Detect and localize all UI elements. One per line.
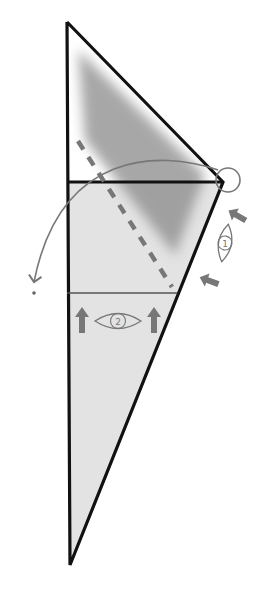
origami-diagram: 1 2 [0, 0, 263, 593]
view-marker-number: 1 [222, 239, 228, 249]
arrow-dot [32, 291, 36, 295]
push-arrow-icon [225, 204, 249, 226]
view-marker-number: 2 [115, 317, 121, 327]
push-arrow-icon [197, 271, 221, 291]
